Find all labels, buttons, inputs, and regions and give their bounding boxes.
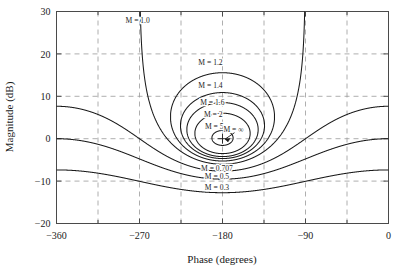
curve-label: M = 1.2 (198, 58, 223, 67)
curve-label: M = 0.707 (201, 164, 233, 173)
curve-label: M = 1.0 (125, 16, 150, 25)
nichols-chart-figure: −360−270−180−900−20−100102030 M = 1.0M =… (0, 0, 407, 272)
nichols-chart-svg: −360−270−180−900−20−100102030 M = 1.0M =… (0, 0, 407, 272)
x-axis-label: Phase (degrees) (187, 253, 257, 266)
curve-label: M = 0.3 (205, 183, 230, 192)
y-tick-label: −10 (35, 176, 51, 187)
x-tick-label: −360 (46, 230, 67, 241)
y-tick-label: 0 (46, 133, 51, 144)
curve-label: M = 5 (205, 122, 224, 131)
y-tick-label: 20 (41, 49, 51, 60)
y-tick-label: 10 (41, 91, 51, 102)
curve-label: M = 1.6 (200, 98, 225, 107)
curve-label: M = 1.4 (198, 81, 223, 90)
y-tick-label: −20 (35, 218, 51, 229)
curve-label: M = 2 (204, 110, 223, 119)
curve-label: M = 0.5 (205, 172, 230, 181)
y-tick-label: 30 (41, 6, 51, 17)
curve-label: M = ∞ (223, 125, 243, 134)
x-tick-label: −90 (298, 230, 314, 241)
x-tick-label: −180 (212, 230, 233, 241)
x-tick-label: 0 (386, 230, 391, 241)
y-axis-label: Magnitude (dB) (3, 81, 16, 152)
x-tick-label: −270 (129, 230, 150, 241)
